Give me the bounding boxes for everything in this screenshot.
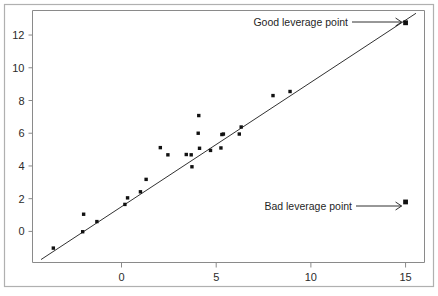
data-point-marker xyxy=(126,196,129,199)
data-point-marker xyxy=(198,147,201,150)
canvas-background xyxy=(0,0,438,296)
bad-leverage-label: Bad leverage point xyxy=(264,200,352,212)
data-point-marker xyxy=(209,149,212,152)
data-point-marker xyxy=(239,125,242,128)
data-point-marker xyxy=(190,165,193,168)
x-tick-label: 5 xyxy=(213,271,219,283)
y-tick-label: 8 xyxy=(18,95,24,107)
data-point-marker xyxy=(197,132,200,135)
chart-canvas: 024681012 051015 Good leverage pointBad … xyxy=(0,0,438,296)
data-point-marker xyxy=(288,90,291,93)
data-point-marker xyxy=(185,153,188,156)
data-point-marker xyxy=(219,146,222,149)
data-point-marker xyxy=(144,178,147,181)
data-point-marker xyxy=(271,94,274,97)
data-point-marker xyxy=(238,132,241,135)
x-tick-label: 15 xyxy=(399,271,411,283)
y-tick-label: 2 xyxy=(18,193,24,205)
y-tick-label: 10 xyxy=(12,62,24,74)
data-point-marker xyxy=(189,153,192,156)
data-point-marker xyxy=(81,230,84,233)
data-point-marker xyxy=(95,220,98,223)
data-point-marker xyxy=(222,132,225,135)
x-tick-label: 10 xyxy=(305,271,317,283)
x-tick-label: 0 xyxy=(118,271,124,283)
data-point-marker xyxy=(139,190,142,193)
data-point-marker xyxy=(82,213,85,216)
data-point-marker xyxy=(52,246,55,249)
scatter-plot-figure: 024681012 051015 Good leverage pointBad … xyxy=(0,0,438,296)
y-tick-label: 6 xyxy=(18,127,24,139)
y-tick-label: 12 xyxy=(12,29,24,41)
y-tick-label: 4 xyxy=(18,160,24,172)
data-point-marker xyxy=(166,153,169,156)
data-point-marker xyxy=(197,114,200,117)
good-leverage-point-marker xyxy=(403,20,408,25)
good-leverage-label: Good leverage point xyxy=(253,16,348,28)
y-tick-label: 0 xyxy=(18,225,24,237)
data-point-marker xyxy=(159,146,162,149)
data-point-marker xyxy=(123,203,126,206)
bad-leverage-point-marker xyxy=(403,200,408,205)
